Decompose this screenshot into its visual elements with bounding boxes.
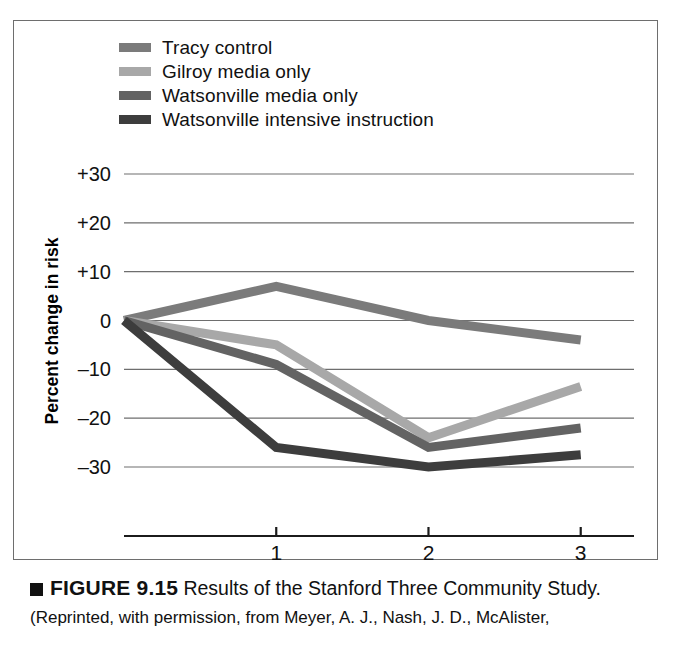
x-axis-tick-label: 1	[270, 541, 282, 561]
y-axis-tick-label: +10	[77, 261, 111, 283]
caption-title: Results of the Stanford Three Community …	[183, 577, 601, 599]
figure-frame: Tracy control Gilroy media only Watsonvi…	[13, 20, 658, 560]
x-axis-tick-labels: 123	[270, 541, 586, 561]
y-axis-title: Percent change in risk	[42, 237, 62, 424]
caption-figure-number: FIGURE 9.15	[50, 576, 178, 599]
y-axis-tick-labels: +30+20+100–10–20–30	[77, 163, 111, 478]
x-axis-tick-label: 2	[423, 541, 435, 561]
y-axis-tick-label: –20	[78, 407, 111, 429]
figure-caption: FIGURE 9.15 Results of the Stanford Thre…	[30, 574, 670, 632]
caption-square-icon	[30, 583, 43, 596]
caption-source: (Reprinted, with permission, from Meyer,…	[30, 608, 550, 627]
line-chart-plot: +30+20+100–10–20–30 Percent change in ri…	[14, 21, 659, 561]
y-axis-tick-label: –30	[78, 456, 111, 478]
x-axis-tick-label: 3	[575, 541, 587, 561]
y-axis-tick-label: 0	[100, 310, 111, 332]
series-line-watsonville-media-only	[124, 321, 581, 448]
y-axis-tick-label: –10	[78, 358, 111, 380]
x-axis-ticks	[276, 527, 580, 536]
data-series-group	[124, 286, 581, 467]
y-axis-tick-label: +30	[77, 163, 111, 185]
y-axis-tick-label: +20	[77, 212, 111, 234]
